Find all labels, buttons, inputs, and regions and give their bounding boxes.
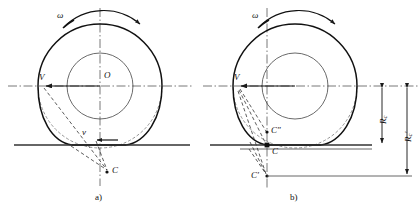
diagram-canvas [0, 0, 419, 210]
label-velocity-v-a: v [82, 128, 86, 137]
caption-panel-a: a) [95, 192, 102, 202]
point-C-mid-b [265, 143, 270, 148]
label-instant-center-C-low-b: C′ [251, 171, 259, 180]
point-C-a [105, 170, 108, 173]
point-C-high-b [265, 130, 268, 133]
label-Rc-subscript: c [381, 116, 388, 119]
label-velocity-V-b: V [234, 73, 240, 82]
label-dimension-Rc: Rc [379, 116, 389, 124]
label-instant-center-C-a: C [112, 166, 118, 175]
label-Rc-symbol: R [378, 119, 388, 125]
label-omega-a: ω [57, 11, 63, 20]
figure-root: ω O V v C a) ω V C″ C C′ b) Rc Rc′ [0, 0, 419, 210]
label-Rc-prime-symbol: R [403, 137, 413, 143]
panel-a [8, 8, 192, 186]
label-dimension-Rc-prime: Rc′ [404, 132, 414, 142]
label-omega-b: ω [252, 11, 258, 20]
construction-line-V-C-b [239, 90, 266, 144]
label-center-O-a: O [104, 71, 111, 80]
construction-line-V-Cdoubleprime-b [240, 89, 266, 131]
panel-b [203, 8, 419, 190]
construction-line-V-C-a [44, 88, 107, 170]
construction-line-V-Cprime-b [238, 91, 266, 174]
label-velocity-V-a: V [39, 73, 45, 82]
omega-arrow-tail-a [63, 20, 74, 28]
label-instant-center-C-mid-b: C [272, 147, 278, 156]
caption-panel-b: b) [290, 192, 298, 202]
construction-line-edge-C-a [71, 146, 107, 170]
label-Rc-prime-subscript: c [406, 134, 413, 137]
label-instant-center-C-high-b: C″ [271, 126, 281, 135]
label-Rc-prime-mark: ′ [403, 132, 413, 134]
tyre-outline-b [233, 24, 357, 145]
